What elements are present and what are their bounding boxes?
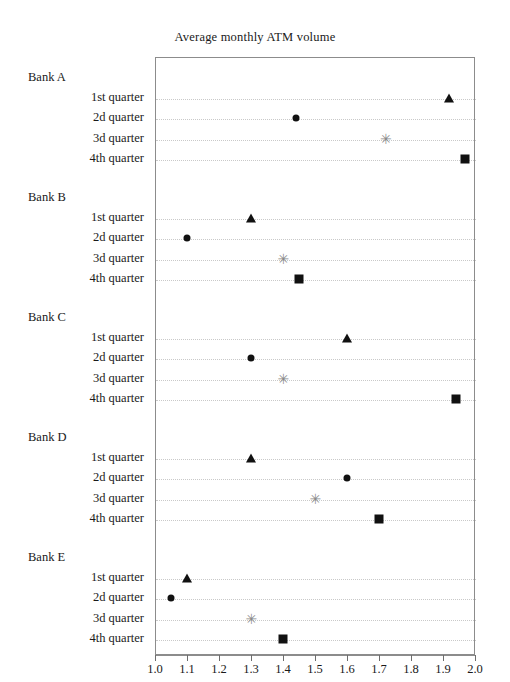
gridline: [156, 99, 476, 100]
gridline: [156, 239, 476, 240]
gridline: [156, 119, 476, 120]
quarter-label: 2d quarter: [4, 110, 144, 125]
gridline: [156, 579, 476, 580]
x-axis-tick: [475, 655, 476, 661]
data-point-triangle-icon: [444, 94, 454, 103]
data-point-circle-icon: [184, 235, 191, 242]
gridline: [156, 640, 476, 641]
bank-group-label: Bank E: [28, 550, 65, 565]
bank-group-label: Bank C: [28, 310, 66, 325]
x-axis-tick: [155, 655, 156, 661]
gridline: [156, 140, 476, 141]
quarter-label: 4th quarter: [4, 391, 144, 406]
quarter-label: 3d quarter: [4, 371, 144, 386]
quarter-label: 1st quarter: [4, 450, 144, 465]
data-point-square-icon: [279, 634, 288, 643]
gridline: [156, 479, 476, 480]
data-point-triangle-icon: [246, 454, 256, 463]
quarter-label: 2d quarter: [4, 230, 144, 245]
quarter-label: 3d quarter: [4, 251, 144, 266]
x-axis-tick: [315, 655, 316, 661]
x-axis-tick: [347, 655, 348, 661]
quarter-label: 4th quarter: [4, 271, 144, 286]
data-point-triangle-icon: [246, 214, 256, 223]
gridline: [156, 620, 476, 621]
quarter-label: 3d quarter: [4, 131, 144, 146]
x-axis-tick: [283, 655, 284, 661]
quarter-label: 1st quarter: [4, 210, 144, 225]
bank-group-label: Bank D: [28, 430, 67, 445]
data-point-asterisk-icon: ✳: [278, 253, 289, 264]
quarter-label: 1st quarter: [4, 90, 144, 105]
x-axis-tick: [411, 655, 412, 661]
quarter-label: 4th quarter: [4, 631, 144, 646]
data-point-square-icon: [461, 154, 470, 163]
x-axis-tick: [251, 655, 252, 661]
data-point-circle-icon: [292, 115, 299, 122]
data-point-circle-icon: [168, 595, 175, 602]
quarter-label: 4th quarter: [4, 511, 144, 526]
data-point-asterisk-icon: ✳: [380, 133, 391, 144]
data-point-asterisk-icon: ✳: [310, 493, 321, 504]
quarter-label: 3d quarter: [4, 611, 144, 626]
gridline: [156, 260, 476, 261]
quarter-label: 2d quarter: [4, 350, 144, 365]
quarter-label: 3d quarter: [4, 491, 144, 506]
quarter-label: 2d quarter: [4, 590, 144, 605]
gridline: [156, 280, 476, 281]
gridline: [156, 219, 476, 220]
gridline: [156, 339, 476, 340]
dot-plot-chart: Average monthly ATM volume Bank A1st qua…: [0, 0, 510, 682]
gridline: [156, 160, 476, 161]
quarter-label: 2d quarter: [4, 470, 144, 485]
gridline: [156, 400, 476, 401]
x-axis-tick: [379, 655, 380, 661]
x-axis-tick: [443, 655, 444, 661]
x-axis-tick: [187, 655, 188, 661]
quarter-label: 1st quarter: [4, 330, 144, 345]
chart-title: Average monthly ATM volume: [0, 30, 510, 45]
data-point-circle-icon: [344, 475, 351, 482]
data-point-square-icon: [375, 514, 384, 523]
data-point-square-icon: [451, 394, 460, 403]
quarter-label: 1st quarter: [4, 570, 144, 585]
quarter-label: 4th quarter: [4, 151, 144, 166]
data-point-asterisk-icon: ✳: [246, 613, 257, 624]
gridline: [156, 459, 476, 460]
plot-area: [155, 57, 475, 655]
data-point-triangle-icon: [342, 334, 352, 343]
data-point-triangle-icon: [182, 574, 192, 583]
gridline: [156, 599, 476, 600]
bank-group-label: Bank A: [28, 70, 66, 85]
data-point-circle-icon: [248, 355, 255, 362]
gridline: [156, 520, 476, 521]
gridline: [156, 359, 476, 360]
data-point-square-icon: [295, 274, 304, 283]
data-point-asterisk-icon: ✳: [278, 373, 289, 384]
bank-group-label: Bank B: [28, 190, 66, 205]
x-axis-tick-label: 2.0: [455, 662, 495, 677]
gridline: [156, 380, 476, 381]
x-axis-tick: [219, 655, 220, 661]
